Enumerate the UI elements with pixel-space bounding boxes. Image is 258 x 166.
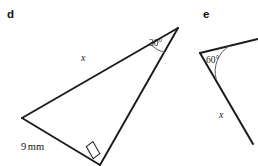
angle-ray-lower-x [200,53,253,144]
base-length-unit: mm [28,141,44,152]
right-angle-marker-icon [86,142,100,159]
base-length-value: 9 [21,141,26,152]
triangle-side-vertical [100,28,178,165]
part-label-e: e [203,9,209,21]
geometry-figure-screenshot: d e x 9mm 30° 60° x [0,0,258,166]
side-length-label-x-part-e: x [219,110,223,120]
angle-measure-label-60: 60° [206,56,219,66]
triangle-part-d [22,28,178,165]
angle-measure-label-30: 30° [149,39,162,49]
side-length-label-9mm: 9mm [21,142,44,153]
part-label-d: d [7,9,14,21]
side-length-label-x-part-d: x [81,53,85,63]
